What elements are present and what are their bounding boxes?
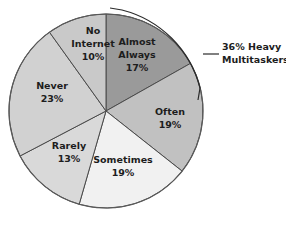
pie-label-often-line1: Often: [155, 106, 185, 117]
pie-value-no-internet: 10%: [82, 51, 105, 62]
callout-label-line2: Multitaskers: [222, 54, 286, 65]
pie-value-rarely: 13%: [58, 153, 81, 164]
pie-value-often: 19%: [159, 119, 182, 130]
pie-label-sometimes-line1: Sometimes: [93, 154, 153, 165]
pie-chart: Almost Always 17% Often 19% Sometimes 19…: [0, 0, 286, 226]
pie-label-no-internet-line1: No: [86, 25, 101, 36]
pie-label-almost-always-line1: Almost: [118, 36, 156, 47]
callout-label-line1: 36% Heavy: [222, 41, 282, 52]
pie-label-no-internet-line2: Internet: [71, 38, 115, 49]
pie-value-never: 23%: [41, 93, 64, 104]
pie-label-almost-always-line2: Always: [118, 49, 156, 60]
pie-label-rarely-line1: Rarely: [52, 140, 87, 151]
pie-chart-canvas: Almost Always 17% Often 19% Sometimes 19…: [0, 0, 286, 226]
pie-label-never-line1: Never: [36, 80, 68, 91]
pie-value-almost-always: 17%: [126, 62, 149, 73]
pie-value-sometimes: 19%: [112, 167, 135, 178]
